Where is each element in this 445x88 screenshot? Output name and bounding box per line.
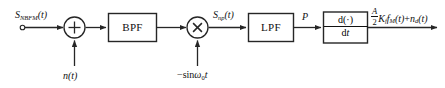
output-noise-arg: (t) — [418, 13, 427, 24]
mixer-output-arg: (t) — [225, 9, 234, 20]
output-gain: K — [378, 13, 385, 24]
lowpass-filter-label: LPF — [249, 22, 294, 33]
noise-arg: (t) — [68, 70, 77, 81]
lpf-output-label: P — [302, 12, 308, 22]
oscillator-function: sin — [183, 69, 195, 80]
differentiator-expression: d(·) dt — [324, 15, 368, 38]
input-terminal-dot — [20, 25, 25, 30]
differentiator-denominator-t: t — [347, 27, 350, 38]
input-signal-arg: (t) — [38, 9, 47, 20]
output-signal-label: A 2 KffM(t)+nd(t) — [371, 7, 428, 26]
input-signal-label: SNBFM(t) — [15, 10, 47, 21]
differentiator-denominator: dt — [324, 27, 368, 38]
differentiator-numerator: d(·) — [324, 15, 368, 27]
output-message-arg: (t) — [395, 13, 404, 24]
mixer-output-label: Snp(t) — [213, 10, 234, 21]
bandpass-filter-label: BPF — [109, 22, 157, 33]
noise-input-label: n(t) — [63, 71, 77, 81]
block-diagram: SNBFM(t) n(t) BPF −sinω0t Snp(t) LPF P d… — [0, 0, 445, 88]
input-signal-subscript: NBFM — [20, 14, 38, 21]
local-oscillator-label: −sinω0t — [177, 70, 207, 81]
oscillator-arg: t — [205, 69, 208, 80]
